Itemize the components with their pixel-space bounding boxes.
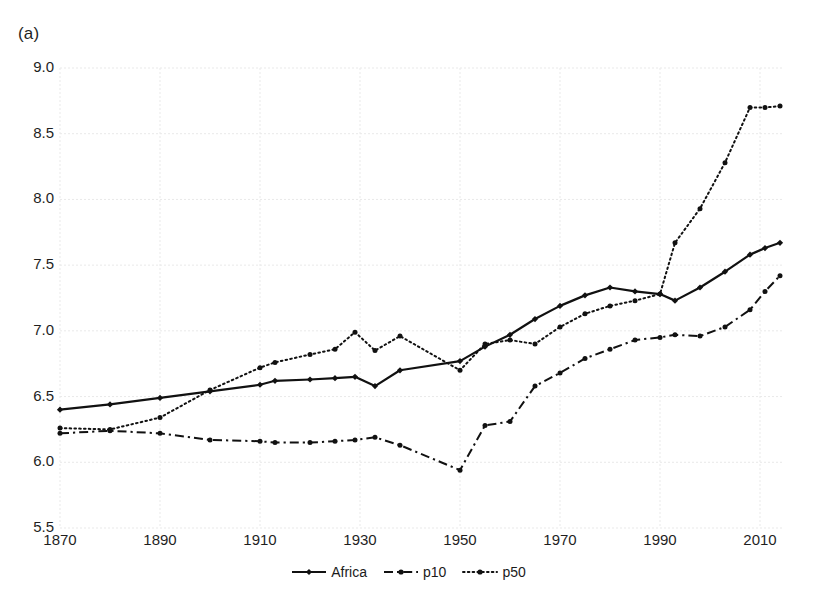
chart-legend: Africap10p50: [0, 561, 817, 583]
legend-swatch-dotted-icon: [462, 566, 498, 578]
y-tick-label: 6.0: [14, 452, 54, 469]
legend-label: p50: [502, 564, 525, 580]
series-p10: [58, 273, 783, 473]
x-tick-label: 1970: [525, 531, 595, 548]
series-layer: [57, 104, 783, 473]
y-tick-label: 7.0: [14, 321, 54, 338]
legend-item-p10: p10: [383, 564, 446, 580]
legend-item-africa: Africa: [291, 564, 367, 580]
x-tick-label: 2010: [725, 531, 795, 548]
x-tick-label: 1910: [225, 531, 295, 548]
y-tick-label: 6.5: [14, 387, 54, 404]
x-tick-label: 1990: [625, 531, 695, 548]
y-tick-label: 8.5: [14, 124, 54, 141]
figure-panel-a: (a) 5.56.06.57.07.58.08.59.0 18701890191…: [0, 0, 817, 602]
y-tick-label: 7.5: [14, 255, 54, 272]
x-tick-label: 1890: [125, 531, 195, 548]
y-tick-label: 8.0: [14, 189, 54, 206]
legend-item-p50: p50: [462, 564, 525, 580]
legend-swatch-solid-icon: [291, 566, 327, 578]
y-tick-label: 9.0: [14, 58, 54, 75]
x-tick-label: 1930: [325, 531, 395, 548]
legend-label: Africa: [331, 564, 367, 580]
line-chart: [0, 0, 817, 602]
x-tick-label: 1870: [25, 531, 95, 548]
legend-swatch-dashdot-icon: [383, 566, 419, 578]
series-p50: [58, 104, 783, 432]
panel-label: (a): [18, 24, 39, 44]
x-tick-label: 1950: [425, 531, 495, 548]
series-africa: [57, 240, 783, 413]
legend-label: p10: [423, 564, 446, 580]
